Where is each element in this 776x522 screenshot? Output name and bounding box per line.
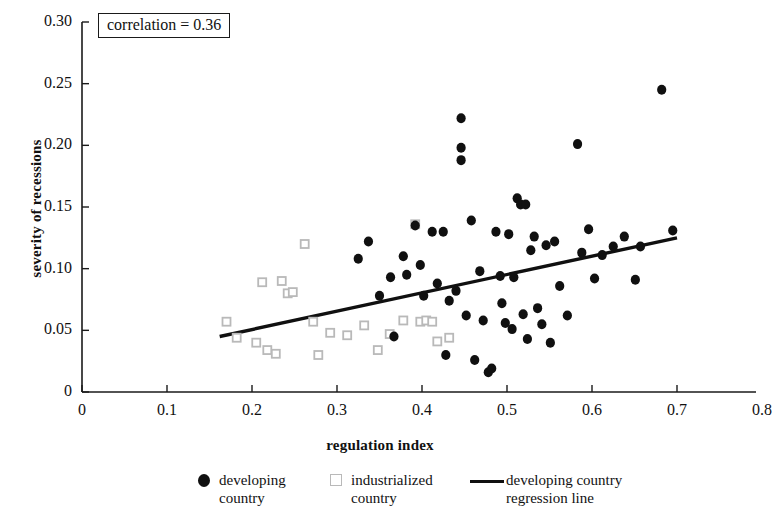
legend-item: developing country regression line xyxy=(470,472,622,507)
chart-legend: developing countryindustrialized country… xyxy=(0,472,760,522)
developing-country-points xyxy=(354,85,678,377)
legend-line-icon xyxy=(470,480,504,483)
legend-filled-circle-icon xyxy=(198,474,210,487)
regression-line xyxy=(220,238,677,337)
legend-item-label: developing country xyxy=(219,472,286,507)
legend-open-square-icon xyxy=(330,474,342,486)
legend-item-label: industrialized country xyxy=(351,472,433,507)
industrialized-country-points xyxy=(223,220,454,359)
legend-item-label: developing country regression line xyxy=(506,472,622,507)
axes xyxy=(82,22,760,392)
legend-item: developing country xyxy=(198,472,286,507)
legend-item: industrialized country xyxy=(330,472,433,507)
